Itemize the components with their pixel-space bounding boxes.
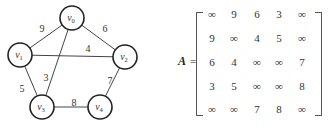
matrix-cell-4-1: ∞	[222, 103, 246, 115]
node-v4: v4	[88, 95, 112, 119]
matrix-cell-1-1: ∞	[222, 32, 246, 44]
matrix-cell-0-2: 6	[245, 8, 269, 20]
matrix-cell-2-3: ∞	[267, 56, 291, 68]
matrix-cell-0-3: 3	[267, 8, 291, 20]
matrix-cell-2-0: 6	[200, 56, 224, 68]
matrix-cell-3-2: ∞	[245, 80, 269, 92]
node-v0: v0	[60, 6, 84, 30]
matrix-cell-4-2: 7	[245, 103, 269, 115]
matrix-cell-3-3: ∞	[267, 80, 291, 92]
matrix-cell-4-0: ∞	[200, 103, 224, 115]
edge-v0-v3	[42, 18, 72, 107]
matrix-cell-3-1: 5	[222, 80, 246, 92]
matrix-cell-1-3: 5	[267, 32, 291, 44]
matrix-cell-0-4: ∞	[290, 8, 314, 20]
edge-weight-label: 7	[108, 75, 113, 86]
edge-weight-label: 5	[20, 83, 25, 94]
matrix-cell-0-0: ∞	[200, 8, 224, 20]
right-bracket	[315, 12, 322, 116]
node-v3: v3	[30, 95, 54, 119]
graph-edges: 9643578	[20, 18, 126, 108]
matrix-cell-1-2: 4	[245, 32, 269, 44]
weighted-graph: 9643578 v0v1v2v3v4	[0, 0, 165, 128]
edge-weight-label: 3	[44, 72, 49, 83]
matrix-name: A	[178, 54, 186, 69]
matrix-cell-2-4: 7	[290, 56, 314, 68]
edge-weight-label: 8	[72, 97, 77, 108]
edge-weight-label: 9	[40, 23, 45, 34]
matrix-cell-3-4: 8	[290, 80, 314, 92]
matrix-cell-2-1: 4	[222, 56, 246, 68]
matrix-cell-1-0: 9	[200, 32, 224, 44]
matrix-cell-3-0: 3	[200, 80, 224, 92]
edge-weight-label: 6	[103, 23, 108, 34]
matrix-cell-2-2: ∞	[245, 56, 269, 68]
matrix-cell-1-4: ∞	[290, 32, 314, 44]
node-v1: v1	[8, 43, 32, 67]
matrix-cell-4-4: ∞	[290, 103, 314, 115]
edge-weight-label: 4	[86, 43, 91, 54]
adjacency-matrix: A = ∞963∞9∞45∞64∞∞735∞∞8∞∞78∞	[165, 0, 329, 128]
matrix-cell-4-3: 8	[267, 103, 291, 115]
matrix-cell-0-1: 9	[222, 8, 246, 20]
edge-v1-v2	[20, 55, 125, 57]
node-v2: v2	[113, 45, 137, 69]
